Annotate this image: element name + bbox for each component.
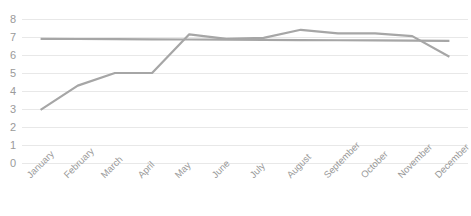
series-line	[41, 30, 450, 110]
y-axis: 876543210	[0, 0, 16, 216]
y-axis-tick-label: 6	[0, 50, 16, 61]
plot-area	[22, 0, 468, 216]
y-axis-tick-label: 3	[0, 104, 16, 115]
y-axis-tick-label: 0	[0, 158, 16, 169]
y-axis-tick-label: 1	[0, 140, 16, 151]
y-axis-tick-label: 5	[0, 68, 16, 79]
y-axis-tick-label: 7	[0, 32, 16, 43]
y-axis-tick-label: 2	[0, 122, 16, 133]
series-line	[41, 39, 450, 41]
y-axis-tick-label: 8	[0, 14, 16, 25]
y-axis-tick-label: 4	[0, 86, 16, 97]
data-series-layer	[22, 0, 468, 216]
